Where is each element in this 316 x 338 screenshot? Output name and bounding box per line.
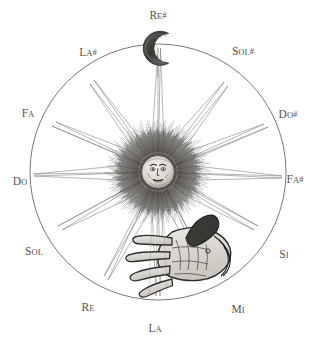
note-label-do-sharp: DO#	[279, 105, 298, 121]
note-label-re-sharp: RE#	[149, 6, 166, 22]
note-accidental: #	[92, 47, 96, 57]
crescent-moon	[143, 31, 168, 78]
note-accidental: #	[293, 109, 297, 119]
note-root: FA	[287, 173, 300, 185]
note-root: RE	[82, 301, 95, 313]
note-root: LA	[79, 46, 92, 58]
note-root: FA	[22, 107, 35, 119]
note-root: MI	[231, 303, 244, 315]
note-label-re: RE	[82, 298, 95, 314]
note-root: DO	[279, 108, 294, 120]
note-label-la: LA	[148, 319, 161, 335]
note-root: RE	[149, 9, 162, 21]
note-root: SOL	[232, 45, 250, 57]
note-accidental: #	[250, 46, 254, 56]
note-label-mi: MI	[231, 300, 244, 316]
engraving-plate: RE# SOL# DO# FA# SI MI LA RE SOL DO FA L…	[0, 0, 316, 338]
note-label-do: DO	[13, 172, 28, 188]
note-accidental: #	[162, 10, 166, 20]
engraved-hand	[126, 206, 231, 297]
note-label-si: SI	[279, 245, 288, 261]
note-root: DO	[13, 175, 28, 187]
note-label-sol: SOL	[25, 242, 43, 258]
note-root: SOL	[25, 245, 43, 257]
note-accidental: #	[299, 174, 303, 184]
note-label-fa-sharp: FA#	[287, 170, 304, 186]
note-label-la-sharp: LA#	[79, 43, 97, 59]
note-root: SI	[279, 248, 288, 260]
note-label-fa: FA	[22, 104, 35, 120]
chromatic-circle-figure	[0, 0, 316, 338]
moon-face-profile	[155, 43, 159, 54]
note-label-sol-sharp: SOL#	[232, 42, 254, 58]
sun-face	[139, 153, 177, 191]
note-root: LA	[148, 322, 161, 334]
